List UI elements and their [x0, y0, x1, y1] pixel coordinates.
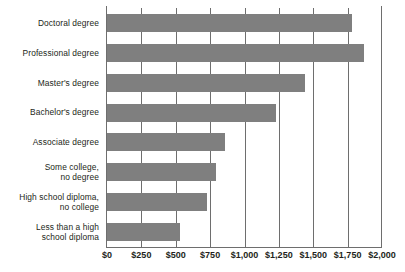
bar-slot	[107, 217, 382, 247]
bar-associate-degree	[107, 133, 225, 151]
x-tick-label: $0	[102, 250, 112, 260]
x-tick-label: $1,500	[299, 250, 327, 260]
category-axis: Doctoral degree Professional degree Mast…	[0, 8, 103, 247]
value-axis: $0$250$500$750$1,000$1,250$1,500$1,750$2…	[107, 250, 382, 266]
bar-slot	[107, 128, 382, 158]
bar-doctoral-degree	[107, 14, 352, 32]
bar-slot	[107, 38, 382, 68]
x-tick-label: $1,250	[265, 250, 293, 260]
x-tick-label: $1,000	[231, 250, 259, 260]
x-tick-label: $750	[200, 250, 220, 260]
bar-slot	[107, 157, 382, 187]
category-label: High school diploma, no college	[0, 187, 103, 217]
plot-area	[107, 8, 382, 247]
category-label: Master's degree	[0, 68, 103, 98]
x-tick-label: $250	[131, 250, 151, 260]
category-label: Bachelor's degree	[0, 98, 103, 128]
bar-chart: Doctoral degree Professional degree Mast…	[0, 0, 405, 272]
bar-some-college-no-degree	[107, 163, 216, 181]
bar-professional-degree	[107, 44, 364, 62]
bar-high-school-diploma-no-college	[107, 193, 207, 211]
x-tick-label: $1,750	[334, 250, 362, 260]
bars-layer	[107, 8, 382, 247]
x-axis-line	[106, 247, 382, 248]
category-label: Some college, no degree	[0, 157, 103, 187]
category-label: Professional degree	[0, 38, 103, 68]
bar-bachelor-s-degree	[107, 104, 276, 122]
category-label: Doctoral degree	[0, 8, 103, 38]
bar-slot	[107, 8, 382, 38]
bar-slot	[107, 98, 382, 128]
bar-master-s-degree	[107, 74, 305, 92]
bar-slot	[107, 68, 382, 98]
category-label: Less than a high school diploma	[0, 217, 103, 247]
x-tick-label: $500	[166, 250, 186, 260]
x-tick-label: $2,000	[368, 250, 396, 260]
bar-slot	[107, 187, 382, 217]
bar-less-than-a-high-school-diploma	[107, 223, 180, 241]
category-label: Associate degree	[0, 128, 103, 158]
